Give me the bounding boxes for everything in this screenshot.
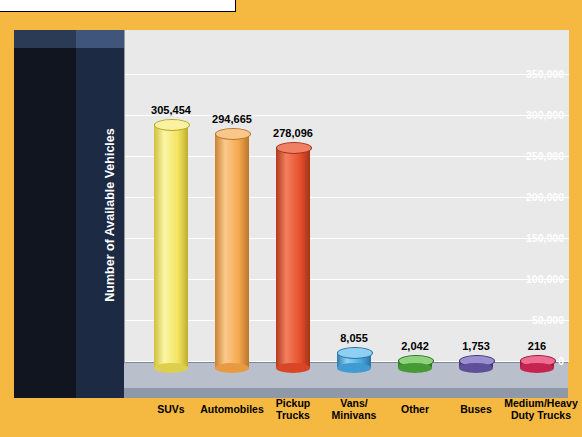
bar-buses (459, 360, 493, 368)
bar-other (398, 360, 432, 368)
chart-left-wall (14, 48, 76, 398)
bar-bottom-cap (337, 363, 371, 373)
bar-medium-heavy-duty-trucks (520, 360, 554, 368)
bar-bottom-cap (215, 363, 249, 373)
category-label-medium-heavy-duty-trucks: Medium/Heavy Duty Trucks (494, 398, 582, 421)
bar-pickup-trucks (276, 147, 310, 368)
y-tick-350000: 350,000 (456, 68, 564, 80)
y-axis-label: Number of Available Vehicles (103, 95, 117, 335)
y-tick-150000: 150,000 (456, 232, 564, 244)
y-tick-50000: 50,000 (456, 314, 564, 326)
bar-bottom-cap (154, 363, 188, 373)
bar-bottom-cap (520, 363, 554, 373)
y-tick-250000: 250,000 (456, 150, 564, 162)
bar-top-cap (154, 119, 190, 131)
bar-value-pickup-trucks: 278,096 (248, 127, 338, 139)
chart-axis-band: Number of Available Vehicles (76, 48, 124, 398)
bar-bottom-cap (398, 363, 432, 373)
bar-top-cap (276, 142, 312, 154)
y-tick-200000: 200,000 (456, 191, 564, 203)
y-tick-300000: 300,000 (456, 109, 564, 121)
bar-value-medium-heavy-duty-trucks: 216 (492, 340, 582, 352)
bar-vans-minivans (337, 352, 371, 368)
title-box (0, 0, 236, 12)
bar-top-cap (215, 128, 251, 140)
chart-figure: Number of Available Vehicles 350,000 300… (14, 30, 568, 398)
bar-suvs (154, 124, 188, 368)
chart-left-wall-top (14, 30, 76, 48)
bar-bottom-cap (276, 363, 310, 373)
bar-value-automobiles: 294,665 (187, 113, 277, 125)
bar-automobiles (215, 133, 249, 368)
chart-axis-band-top (76, 30, 124, 48)
bar-top-cap (337, 347, 373, 359)
bar-bottom-cap (459, 363, 493, 373)
y-tick-100000: 100,000 (456, 273, 564, 285)
